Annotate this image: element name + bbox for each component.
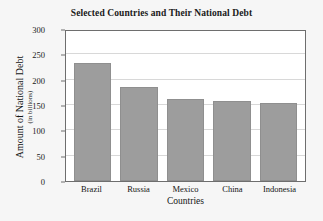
y-tick-mark-0 — [61, 182, 65, 183]
x-tick-label-russia: Russia — [115, 184, 162, 194]
y-tick-label-50: 50 — [5, 152, 45, 162]
y-tick-label-100: 100 — [5, 126, 45, 136]
y-tick-mark-100 — [61, 131, 65, 132]
x-tick-label-indonesia: Indonesia — [256, 184, 303, 194]
y-tick-label-150: 150 — [5, 101, 45, 111]
x-tick-label-mexico: Mexico — [162, 184, 209, 194]
bar-chart-figure: Selected Countries and Their National De… — [0, 0, 323, 221]
chart-title: Selected Countries and Their National De… — [0, 8, 323, 19]
x-axis-tick-labels: BrazilRussiaMexicoChinaIndonesia — [65, 184, 306, 194]
y-tick-label-250: 250 — [5, 50, 45, 60]
y-tick-mark-50 — [61, 156, 65, 157]
y-tick-label-200: 200 — [5, 76, 45, 86]
y-tick-mark-300 — [61, 30, 65, 31]
x-tick-label-brazil: Brazil — [68, 184, 115, 194]
y-axis-ticks: 050100150200250300 — [65, 30, 306, 182]
y-tick-mark-150 — [61, 106, 65, 107]
y-tick-mark-200 — [61, 80, 65, 81]
y-tick-label-0: 0 — [5, 177, 45, 187]
x-axis-title: Countries — [65, 196, 306, 206]
y-tick-mark-250 — [61, 55, 65, 56]
y-tick-label-300: 300 — [5, 25, 45, 35]
x-tick-label-china: China — [209, 184, 256, 194]
